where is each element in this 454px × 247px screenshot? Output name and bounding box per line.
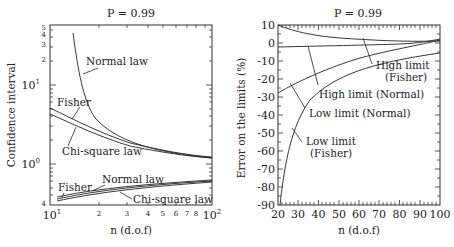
left-y-ticks: 5 4 3 2 101 100 4 [22, 24, 47, 208]
x-tick-5: 5 [161, 210, 165, 218]
y-tick: -30 [257, 91, 275, 104]
left-x-ticks: 101 2 3 4 5 6 7 8 102 [43, 208, 221, 222]
left-chart-title: P = 0.99 [107, 7, 155, 20]
right-x-ticks: 20 30 40 50 60 70 80 90 100 [271, 208, 451, 221]
y-tick-3: 3 [42, 41, 46, 49]
x-tick: 90 [413, 208, 427, 221]
label-high-limit-fisher-1: High limit [376, 59, 430, 71]
y-tick: -60 [257, 145, 275, 158]
label-fisher-upper: Fisher [57, 96, 92, 108]
x-tick-8: 8 [194, 210, 198, 218]
x-tick-4: 4 [146, 210, 151, 218]
y-tick: -80 [257, 181, 275, 194]
label-high-limit-normal: High limit (Normal) [319, 88, 424, 100]
y-tick: -40 [257, 109, 275, 122]
y-tick: -70 [257, 163, 275, 176]
left-y-axis-label: Confidence interval [5, 62, 17, 167]
x-tick: 60 [352, 208, 366, 221]
right-y-ticks: 10 0 -10 -20 -30 -40 -50 -60 -70 -80 -90 [257, 19, 275, 212]
y-tick: 0 [268, 37, 275, 50]
x-tick: 70 [372, 208, 386, 221]
y-tick-4: 4 [42, 31, 47, 39]
x-tick: 50 [332, 208, 346, 221]
x-tick: 40 [312, 208, 326, 221]
y-tick-10-1: 101 [22, 78, 40, 92]
label-low-limit-normal: Low limit (Normal) [309, 107, 411, 119]
right-chart: P = 0.99 Error on the limits (%) 10 0 -1… [235, 7, 451, 236]
x-tick-10-2: 102 [203, 208, 221, 222]
x-tick-10-1: 101 [43, 208, 61, 222]
right-x-axis-label: n (d.o.f) [338, 224, 380, 236]
x-tick-3: 3 [125, 210, 129, 218]
label-chi-square-lower: Chi-square law [133, 193, 213, 205]
x-tick: 20 [271, 208, 285, 221]
y-tick: -20 [257, 73, 275, 86]
label-low-limit-fisher-2: (Fisher) [310, 147, 352, 159]
label-high-limit-fisher-2: (Fisher) [385, 71, 427, 83]
y-tick-10-0: 100 [22, 157, 40, 171]
x-tick-7: 7 [185, 210, 189, 218]
label-normal-law-upper: Normal law [86, 55, 148, 67]
y-tick: -50 [257, 127, 275, 140]
left-chart: P = 0.99 Confidence interval 5 4 3 2 101… [5, 7, 221, 236]
x-tick: 30 [291, 208, 305, 221]
right-y-axis-label: Error on the limits (%) [235, 58, 247, 178]
right-chart-title: P = 0.99 [334, 7, 382, 20]
y-tick: 10 [261, 19, 275, 32]
y-tick: -10 [257, 55, 275, 68]
left-x-axis-label: n (d.o.f) [110, 224, 152, 236]
label-low-limit-fisher-1: Low limit [306, 135, 357, 147]
label-fisher-lower: Fisher [58, 181, 93, 193]
x-tick: 80 [393, 208, 407, 221]
label-normal-law-lower: Normal law [102, 173, 164, 185]
y-tick-2: 2 [42, 56, 46, 64]
figure: P = 0.99 Confidence interval 5 4 3 2 101… [0, 0, 454, 247]
x-tick: 100 [430, 208, 451, 221]
x-tick-2: 2 [97, 210, 101, 218]
x-tick-6: 6 [174, 210, 179, 218]
curve-normal-upper [73, 33, 212, 158]
y-tick-bottom-4: 4 [42, 200, 47, 208]
label-chi-square-upper: Chi-square law [62, 145, 142, 157]
